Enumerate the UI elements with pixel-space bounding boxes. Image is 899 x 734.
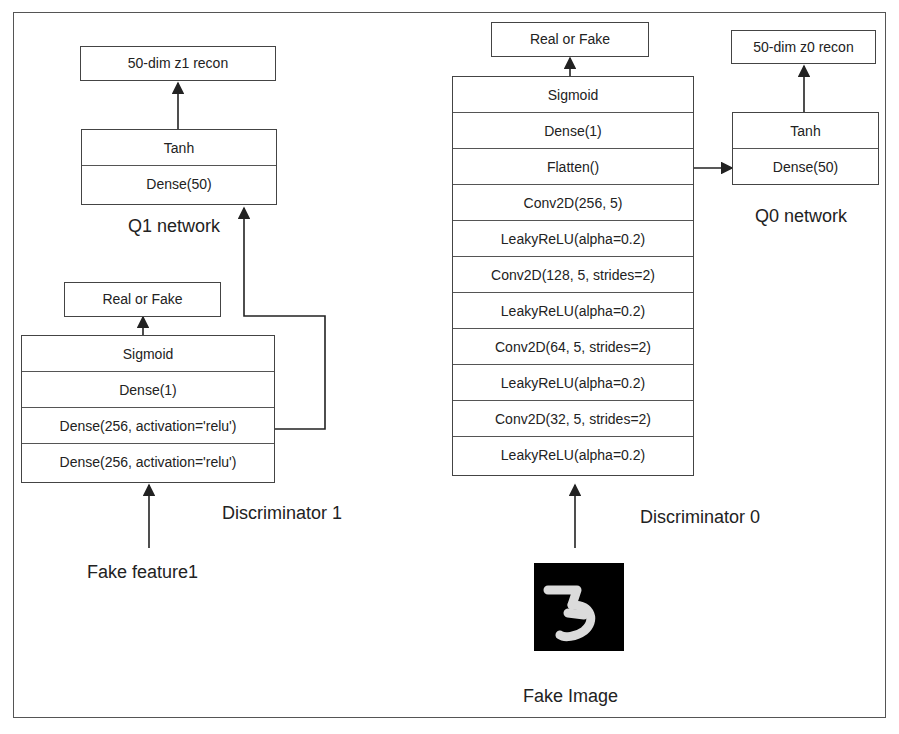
- d1-input-label: Fake feature1: [87, 562, 198, 583]
- d0-layer: LeakyReLU(alpha=0.2): [453, 221, 693, 257]
- q1-output-box: 50-dim z1 recon: [80, 46, 276, 81]
- q0-output-box: 50-dim z0 recon: [731, 30, 876, 64]
- q1-layer: Tanh: [82, 130, 276, 166]
- d1-title: Discriminator 1: [222, 503, 342, 524]
- d1-layer: Dense(256, activation='relu'): [22, 408, 274, 444]
- q0-layer: Tanh: [733, 113, 878, 149]
- d0-layer: LeakyReLU(alpha=0.2): [453, 293, 693, 329]
- q0-network-stack: Tanh Dense(50): [732, 112, 879, 185]
- d1-layer: Dense(256, activation='relu'): [22, 444, 274, 480]
- d0-layer: Conv2D(256, 5): [453, 185, 693, 221]
- d1-network-stack: Sigmoid Dense(1) Dense(256, activation='…: [21, 335, 275, 483]
- d0-network-stack: Sigmoid Dense(1) Flatten() Conv2D(256, 5…: [452, 76, 694, 476]
- q1-network-title: Q1 network: [128, 216, 220, 237]
- d0-title: Discriminator 0: [640, 507, 760, 528]
- d0-layer: Conv2D(64, 5, strides=2): [453, 329, 693, 365]
- d0-layer: Sigmoid: [453, 77, 693, 113]
- d0-layer: Conv2D(128, 5, strides=2): [453, 257, 693, 293]
- d0-layer: LeakyReLU(alpha=0.2): [453, 437, 693, 473]
- d1-layer: Dense(1): [22, 372, 274, 408]
- fake-image-thumbnail: [534, 563, 624, 651]
- d0-layer: Conv2D(32, 5, strides=2): [453, 401, 693, 437]
- d0-output-box: Real or Fake: [491, 22, 649, 57]
- d0-layer: Dense(1): [453, 113, 693, 149]
- digit-3-image: [534, 563, 624, 651]
- d0-input-label: Fake Image: [523, 686, 618, 707]
- d0-layer: LeakyReLU(alpha=0.2): [453, 365, 693, 401]
- q0-network-title: Q0 network: [755, 206, 847, 227]
- d1-output-box: Real or Fake: [64, 282, 221, 317]
- q0-layer: Dense(50): [733, 149, 878, 185]
- q1-layer: Dense(50): [82, 166, 276, 202]
- q1-network-stack: Tanh Dense(50): [81, 129, 277, 205]
- d0-layer: Flatten(): [453, 149, 693, 185]
- d1-layer: Sigmoid: [22, 336, 274, 372]
